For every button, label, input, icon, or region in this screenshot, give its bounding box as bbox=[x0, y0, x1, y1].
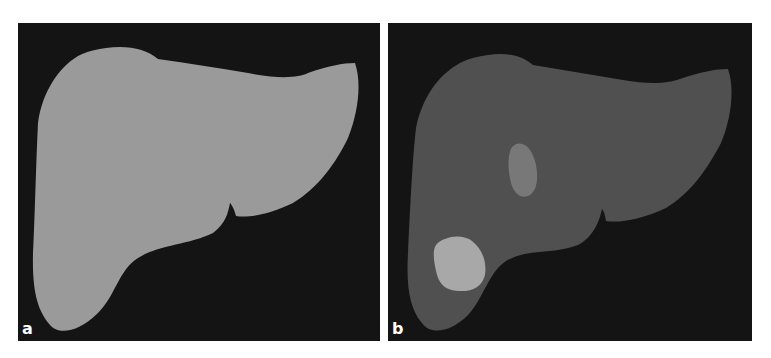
liver-lesion-image bbox=[388, 23, 752, 341]
panel-label-a: a bbox=[22, 321, 33, 337]
liver-shape bbox=[33, 47, 359, 331]
panel-label-b: b bbox=[392, 321, 403, 337]
liver-mask-image bbox=[18, 23, 380, 341]
panel-b: b bbox=[388, 23, 752, 341]
panel-a: a bbox=[18, 23, 380, 341]
